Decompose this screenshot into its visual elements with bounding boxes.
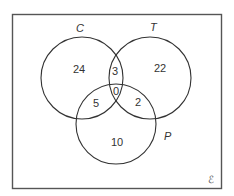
set-t-label: T	[150, 21, 158, 33]
set-t-circle	[109, 37, 191, 119]
region-t-and-p: 2	[135, 96, 141, 108]
region-c-and-t: 3	[112, 65, 118, 77]
region-c-and-p: 5	[93, 97, 99, 109]
set-p-label: P	[164, 130, 172, 142]
region-p-only: 10	[111, 136, 123, 148]
venn-diagram: C T P 24 22 10 3 5 2 0 ℰ	[0, 0, 234, 196]
region-t-only: 22	[154, 62, 166, 74]
region-c-only: 24	[73, 63, 85, 75]
set-c-label: C	[76, 22, 84, 34]
region-c-t-p: 0	[113, 85, 119, 97]
set-c-circle	[41, 37, 123, 119]
universal-set-symbol: ℰ	[208, 174, 214, 185]
